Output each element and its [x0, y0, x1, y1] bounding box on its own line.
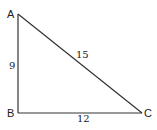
triangle-diagram: A B C 9 15 12 [0, 0, 157, 130]
side-label-ab: 9 [9, 60, 15, 71]
side-label-ac: 15 [76, 49, 89, 60]
vertex-label-c: C [144, 107, 152, 119]
side-label-bc: 12 [77, 113, 90, 124]
vertex-label-a: A [7, 8, 15, 20]
vertex-label-b: B [7, 107, 14, 119]
side-ac [18, 14, 142, 113]
